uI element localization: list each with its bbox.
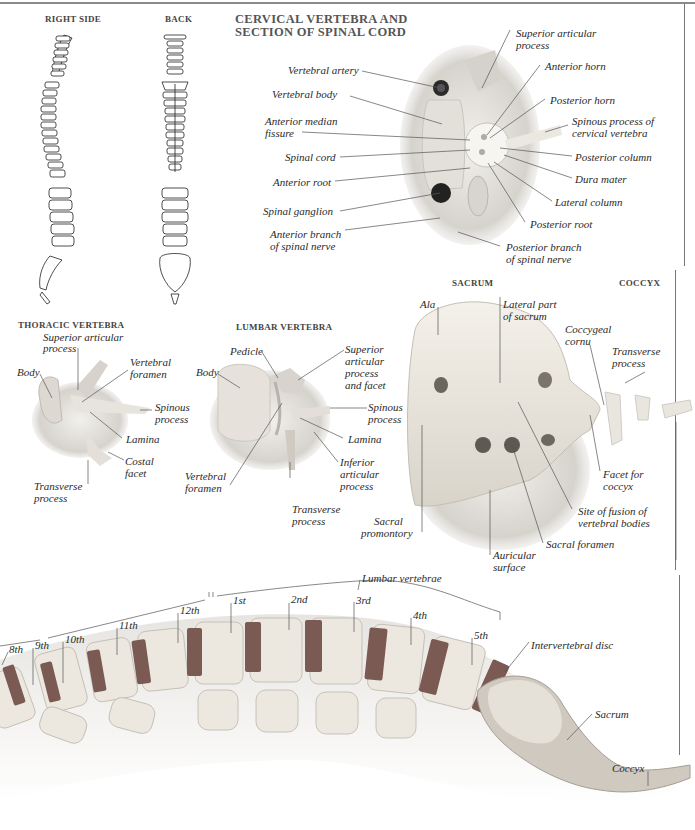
header-coccyx: COCCYX — [619, 278, 660, 288]
label-thoracic-transverse-1: Transverse — [34, 480, 82, 492]
label-superior-articular-1: Superior articular — [516, 27, 596, 39]
label-spinal-ganglion: Spinal ganglion — [263, 205, 333, 217]
cervical-vertebra-image — [400, 45, 562, 245]
label-thoracic-costal-1: Costal — [125, 455, 154, 467]
label-thoracic-9th: 9th — [35, 639, 49, 651]
label-thoracic-11th: 11th — [119, 619, 138, 631]
label-coccygeal-cornu-2: cornu — [565, 335, 591, 347]
label-sacral-promontory-1: Sacral — [374, 515, 403, 527]
spine-right-side-drawing — [40, 35, 74, 304]
label-lumbar-body: Body — [196, 366, 219, 378]
label-posterior-column: Posterior column — [575, 151, 652, 163]
label-lumbar-1st: 1st — [233, 594, 246, 606]
label-thoracic-spinous-2: process — [155, 413, 188, 425]
label-auricular-surface-2: surface — [493, 561, 525, 573]
label-site-of-fusion-2: vertebral bodies — [578, 517, 650, 529]
label-lumbar-transverse-1: Transverse — [292, 503, 340, 515]
spine-back-drawing — [160, 35, 191, 304]
label-lumbar-inferior-1: Inferior — [340, 456, 374, 468]
label-thoracic-transverse-2: process — [34, 492, 67, 504]
label-lateral-column: Lateral column — [555, 196, 623, 208]
label-anterior-root: Anterior root — [273, 176, 331, 188]
label-lateral-part-2: of sacrum — [503, 310, 547, 322]
label-thoracic-superior-2: process — [43, 342, 76, 354]
label-coccygeal-cornu-1: Coccygeal — [565, 323, 611, 335]
coccyx-image — [605, 392, 692, 445]
label-thoracic-lamina: Lamina — [126, 433, 160, 445]
label-thoracic-costal-2: facet — [125, 467, 146, 479]
label-anterior-median-2: fissure — [265, 127, 294, 139]
label-posterior-horn: Posterior horn — [550, 94, 615, 106]
label-thoracic-foramen-1: Vertebral — [130, 356, 171, 368]
label-thoracic-10th: 10th — [65, 633, 85, 645]
header-back: BACK — [165, 14, 192, 24]
label-coccyx-transverse-1: Transverse — [612, 345, 660, 357]
label-anterior-branch-2: of spinal nerve — [270, 240, 335, 252]
label-lumbar-3rd: 3rd — [356, 594, 371, 606]
label-thoracic-body: Body — [17, 366, 40, 378]
label-site-of-fusion-1: Site of fusion of — [578, 505, 647, 517]
label-posterior-branch-1: Posterior branch — [506, 241, 581, 253]
header-cervical-2: SECTION OF SPINAL CORD — [235, 26, 406, 39]
label-lumbar-5th: 5th — [474, 629, 488, 641]
label-facet-for-coccyx-2: coccyx — [603, 480, 633, 492]
label-lumbar-superior-1: Superior — [345, 343, 384, 355]
label-thoracic-12th: 12th — [180, 604, 200, 616]
label-lumbar-spinous-2: process — [368, 413, 401, 425]
label-lumbar-superior-4: and facet — [345, 379, 386, 391]
header-thoracic: THORACIC VERTEBRA — [18, 320, 124, 330]
label-dura-mater: Dura mater — [575, 173, 627, 185]
label-posterior-root: Posterior root — [530, 218, 592, 230]
label-spinous-cervical-2: cervical vertebra — [572, 127, 647, 139]
label-intervertebral-disc: Intervertebral disc — [531, 639, 613, 651]
label-anterior-median-1: Anterior median — [265, 115, 337, 127]
label-spinous-cervical-1: Spinous process of — [572, 115, 654, 127]
label-ala: Ala — [420, 298, 435, 310]
label-lumbar-transverse-2: process — [292, 515, 325, 527]
header-right-side: RIGHT SIDE — [45, 14, 101, 24]
label-sacral-promontory-2: promontory — [361, 527, 413, 539]
label-auricular-surface-1: Auricular — [493, 549, 536, 561]
label-lateral-part-1: Lateral part — [503, 298, 556, 310]
label-posterior-branch-2: of spinal nerve — [506, 253, 571, 265]
label-thoracic-spinous-1: Spinous — [155, 401, 190, 413]
header-sacrum: SACRUM — [452, 278, 493, 288]
label-vertebral-artery: Vertebral artery — [288, 64, 359, 76]
label-facet-for-coccyx-1: Facet for — [603, 468, 644, 480]
label-lumbar-inferior-3: process — [340, 480, 373, 492]
label-lumbar-spinous-1: Spinous — [368, 401, 403, 413]
label-sacral-foramen: Sacral foramen — [546, 538, 614, 550]
label-lumbar-foramen-1: Vertebral — [185, 470, 226, 482]
label-lumbar-lamina: Lamina — [348, 433, 382, 445]
label-lumbar-superior-3: process — [345, 367, 378, 379]
label-spinal-cord: Spinal cord — [285, 151, 336, 163]
label-superior-articular-2: process — [516, 39, 549, 51]
label-lumbar-vertebrae: Lumbar vertebrae — [362, 572, 442, 584]
label-lumbar-4th: 4th — [413, 609, 427, 621]
label-coccyx-transverse-2: process — [612, 357, 645, 369]
header-lumbar: LUMBAR VERTEBRA — [236, 322, 332, 332]
label-lumbar-superior-2: articular — [345, 355, 384, 367]
label-lumbar-inferior-2: articular — [340, 468, 379, 480]
label-column-sacrum: Sacrum — [595, 708, 629, 720]
label-anterior-horn: Anterior horn — [545, 60, 606, 72]
label-column-coccyx: Coccyx — [612, 762, 644, 774]
label-vertebral-body: Vertebral body — [272, 88, 337, 100]
label-lumbar-foramen-2: foramen — [185, 482, 222, 494]
label-thoracic-8th: 8th — [9, 643, 23, 655]
label-lumbar-2nd: 2nd — [291, 593, 308, 605]
label-anterior-branch-1: Anterior branch — [270, 228, 341, 240]
label-thoracic-foramen-2: foramen — [130, 368, 167, 380]
label-lumbar-pedicle: Pedicle — [230, 345, 263, 357]
